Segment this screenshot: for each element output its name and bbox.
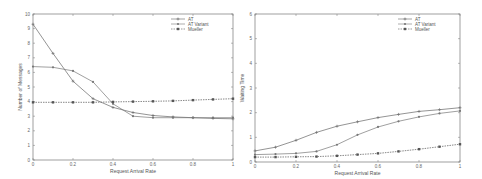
series-mueller [32, 97, 234, 103]
legend: ATAT VariantMueller [171, 17, 209, 32]
x-tick-label: 0.6 [150, 162, 157, 167]
plot-area [33, 14, 233, 160]
legend-entry: Mueller [415, 27, 430, 32]
y-axis-label: Number of Messages [17, 63, 23, 111]
y-tick-label: 0 [249, 160, 252, 165]
y-tick-label: 9 [27, 26, 30, 31]
plot-area [255, 14, 460, 162]
x-tick-label: 0.2 [70, 162, 77, 167]
y-tick-label: 8 [27, 41, 30, 46]
x-tick-label: 0.4 [334, 164, 341, 169]
y-tick-label: 10 [25, 12, 31, 17]
y-tick-label: 1 [27, 143, 30, 148]
y-axis-label: Waiting Time [239, 73, 245, 102]
y-tick-label: 0 [27, 158, 30, 163]
series-mueller [254, 143, 461, 158]
y-tick-label: 5 [27, 85, 30, 90]
y-tick-label: 4 [27, 99, 30, 104]
series-at [254, 106, 462, 152]
y-tick-label: 7 [27, 55, 30, 60]
y-tick-label: 1 [249, 135, 252, 140]
series-at-variant [32, 65, 234, 118]
legend: ATAT VariantMueller [398, 17, 436, 32]
x-tick-label: 0.6 [375, 164, 382, 169]
y-tick-label: 4 [249, 61, 252, 66]
legend-entry: Mueller [188, 27, 203, 32]
y-tick-label: 6 [249, 12, 252, 17]
y-tick-label: 6 [27, 70, 30, 75]
x-tick-label: 0 [32, 162, 35, 167]
x-tick-label: 1 [232, 162, 235, 167]
x-tick-label: 0.2 [293, 164, 300, 169]
y-tick-label: 3 [27, 114, 30, 119]
y-tick-label: 2 [27, 128, 30, 133]
x-axis-label: Request Arrival Rate [335, 170, 381, 176]
y-tick-label: 2 [249, 110, 252, 115]
x-tick-label: 0.4 [110, 162, 117, 167]
charts-figure: 00.20.40.60.81012345678910Request Arriva… [0, 0, 482, 179]
y-tick-label: 5 [249, 36, 252, 41]
series-at [32, 23, 235, 121]
messages-chart: 00.20.40.60.81012345678910Request Arriva… [17, 12, 235, 175]
y-tick-label: 3 [249, 86, 252, 91]
waiting-time-chart: 00.20.40.60.810123456Request Arrival Rat… [239, 12, 462, 177]
series-at-variant [254, 110, 461, 156]
x-tick-label: 0.8 [190, 162, 197, 167]
x-tick-label: 0.8 [416, 164, 423, 169]
x-tick-label: 0 [254, 164, 257, 169]
x-tick-label: 1 [459, 164, 462, 169]
x-axis-label: Request Arrival Rate [110, 168, 156, 174]
